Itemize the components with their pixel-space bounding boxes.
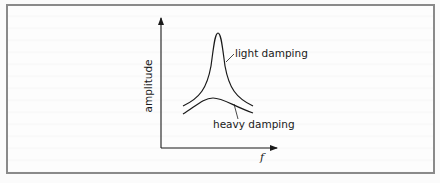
heavy-damping-label: heavy damping [213, 118, 295, 130]
y-axis-label: amplitude [142, 59, 154, 112]
light-damping-curve [183, 33, 253, 106]
light-damping-label: light damping [235, 47, 308, 59]
light-damping-leader [226, 54, 234, 62]
x-axis-label: f [259, 151, 266, 164]
resonance-diagram: light damping heavy damping amplitude f [0, 0, 440, 183]
